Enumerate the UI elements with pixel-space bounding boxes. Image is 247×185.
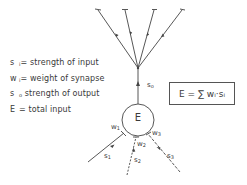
- formula-box: E = ∑ wᵢ·sᵢ: [169, 82, 235, 105]
- weight-label-1: w1: [111, 123, 120, 131]
- legend: si= strength of input wi= weight of syna…: [10, 56, 104, 118]
- legend-item: si= strength of input: [10, 56, 104, 72]
- neuron-diagram: si= strength of input wi= weight of syna…: [0, 0, 247, 185]
- weight-label-2: w2: [137, 140, 146, 148]
- legend-item: wi= weight of synapse: [10, 72, 104, 88]
- legend-item: so strength of output: [10, 87, 104, 103]
- input-line-3: [148, 134, 180, 172]
- weight-label-3: w3: [152, 129, 161, 137]
- legend-item: E= total input: [10, 103, 104, 119]
- output-branches: [95, 9, 185, 68]
- signal-label-2: s2: [134, 156, 141, 164]
- neuron-label: E: [131, 112, 145, 123]
- signal-label-1: s1: [104, 152, 111, 160]
- output-label: so: [147, 81, 154, 89]
- signal-label-3: s3: [167, 152, 174, 160]
